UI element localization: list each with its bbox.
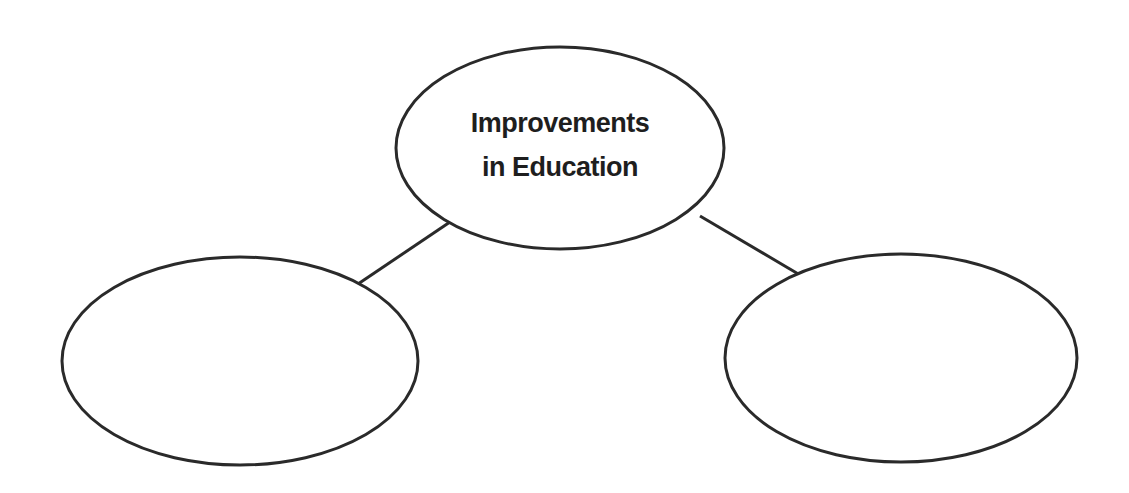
center-node (396, 47, 724, 249)
connector-left (358, 222, 450, 284)
connector-right (700, 216, 800, 275)
center-node-line-1: Improvements (471, 108, 650, 138)
left-child-node[interactable] (62, 257, 418, 465)
web-diagram: Improvements in Education (0, 0, 1129, 493)
right-child-node[interactable] (725, 254, 1077, 462)
center-node-line-2: in Education (482, 152, 638, 182)
